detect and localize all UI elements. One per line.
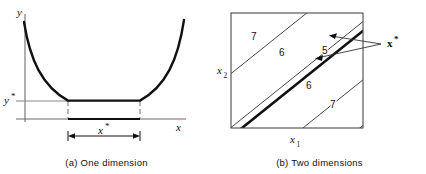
figure-container: y x y * x * (a) One dimension: [0, 0, 426, 174]
contour-line-6-upper: [203, 20, 365, 150]
objective-function-curve: [24, 20, 184, 101]
leader-arrowhead-upper: [329, 33, 337, 39]
dimension-arrowhead-left: [68, 133, 75, 139]
x-star-asterisk: *: [105, 121, 110, 131]
contour-label-7-upper: 7: [251, 31, 257, 42]
svg-text:7: 7: [330, 99, 336, 110]
x-star-label: x *: [97, 121, 110, 136]
y-star-label: y *: [3, 91, 16, 106]
one-dimension-plot: y x y * x *: [0, 0, 213, 150]
leader-arrowhead-lower: [315, 55, 323, 61]
panel-one-dimension: y x y * x * (a) One dimension: [0, 0, 213, 174]
x2-axis-label: x 2: [216, 64, 228, 80]
two-dimensions-contour-plot: 7 6 5 6 7 x *: [213, 0, 426, 150]
svg-text:x: x: [216, 64, 222, 76]
svg-text:7: 7: [251, 31, 257, 42]
optimum-asterisk: *: [394, 34, 399, 44]
contour-label-7-lower: 7: [330, 99, 336, 110]
panel-a-caption: (a) One dimension: [0, 157, 213, 168]
svg-text:6: 6: [279, 47, 285, 58]
svg-text:y: y: [3, 94, 9, 106]
x1-axis-label: x 1: [289, 133, 301, 149]
x1-subscript: 1: [297, 140, 301, 149]
svg-text:x: x: [97, 124, 103, 136]
svg-text:6: 6: [306, 80, 312, 91]
contour-line-5-bold: [227, 10, 389, 140]
contour-label-6-lower: 6: [306, 80, 312, 91]
x2-subscript: 2: [224, 71, 228, 80]
dimension-arrowhead-right: [133, 133, 140, 139]
panel-two-dimensions: 7 6 5 6 7 x *: [213, 0, 426, 174]
panel-b-caption: (b) Two dimensions: [213, 157, 426, 168]
y-star-asterisk: *: [11, 91, 16, 101]
svg-text:x: x: [289, 133, 295, 145]
y-axis-label: y: [16, 6, 22, 18]
contour-label-6-upper: 6: [279, 47, 285, 58]
x-axis-label: x: [175, 121, 181, 133]
contour-label-5-bold: 5: [322, 45, 328, 56]
svg-text:5: 5: [322, 45, 328, 56]
optimum-x-star-label: x *: [387, 34, 399, 49]
svg-text:x: x: [387, 37, 393, 49]
